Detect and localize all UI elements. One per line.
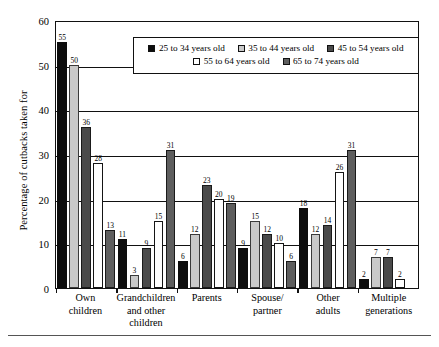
bar[interactable]: 55 [57, 42, 67, 288]
legend-label: 65 to 74 years old [293, 55, 359, 68]
y-tick-label: 20 [10, 194, 49, 205]
bar[interactable]: 18 [299, 208, 309, 288]
x-category-label-line: Parents [176, 292, 237, 305]
bar[interactable]: 11 [118, 239, 128, 288]
legend-item[interactable]: 55 to 64 years old [193, 55, 269, 68]
x-category-label: Multiplegenerations [358, 292, 419, 330]
bar[interactable]: 31 [166, 150, 176, 288]
bar-value-label: 20 [215, 191, 223, 199]
y-tick-label: 50 [10, 60, 49, 71]
bar[interactable]: 6 [286, 261, 296, 288]
legend-label: 45 to 54 years old [338, 42, 404, 55]
bar[interactable]: 36 [81, 127, 91, 288]
y-tick-label: 60 [10, 16, 49, 27]
bar-value-label: 15 [155, 213, 163, 221]
legend-item[interactable]: 65 to 74 years old [283, 55, 359, 68]
bar[interactable]: 10 [274, 243, 284, 288]
y-tick-label: 40 [10, 105, 49, 116]
bar-value-label: 12 [191, 226, 199, 234]
bar-value-label: 7 [386, 249, 390, 257]
bar-value-label: 19 [227, 195, 235, 203]
x-category-label-line: Own [55, 292, 116, 305]
legend-item[interactable]: 35 to 44 years old [238, 42, 314, 55]
bar-slot: 36 [81, 22, 91, 288]
legend-swatch-icon [148, 45, 155, 52]
legend-label: 25 to 34 years old [159, 42, 225, 55]
bar[interactable]: 7 [383, 257, 393, 288]
bar-value-label: 12 [263, 226, 271, 234]
x-category-label-line: partner [237, 305, 298, 318]
bar[interactable]: 14 [323, 225, 333, 288]
bar-value-label: 28 [94, 155, 102, 163]
y-tick-label: 10 [10, 239, 49, 250]
x-category-label-line: Spouse/ [237, 292, 298, 305]
legend-swatch-icon [283, 58, 290, 65]
bar-value-label: 55 [58, 34, 66, 42]
legend-label: 35 to 44 years old [248, 42, 314, 55]
x-category-label-line: adults [298, 305, 359, 318]
bar-value-label: 31 [348, 142, 356, 150]
bar-value-label: 2 [398, 271, 402, 279]
x-category-label-line: children [116, 317, 177, 330]
bar[interactable]: 6 [178, 261, 188, 288]
bar[interactable]: 15 [250, 221, 260, 288]
bar[interactable]: 2 [359, 279, 369, 288]
bar[interactable]: 50 [69, 65, 79, 288]
x-axis-category-labels: OwnchildrenGrandchildrenand otherchildre… [55, 292, 419, 330]
legend-swatch-icon [327, 45, 334, 52]
x-category-label-line: and other [116, 305, 177, 318]
legend-swatch-icon [238, 45, 245, 52]
bar[interactable]: 28 [93, 163, 103, 288]
bar[interactable]: 20 [214, 199, 224, 288]
y-tick-label: 30 [10, 150, 49, 161]
bar-value-label: 3 [133, 267, 137, 275]
x-category-label: Spouse/partner [237, 292, 298, 330]
bar[interactable]: 12 [311, 234, 321, 288]
legend-row-1: 25 to 34 years old35 to 44 years old45 t… [140, 42, 412, 55]
bar[interactable]: 23 [202, 185, 212, 288]
bar-slot: 13 [105, 22, 115, 288]
bar[interactable]: 9 [142, 248, 152, 288]
legend-swatch-icon [193, 58, 200, 65]
bar[interactable]: 31 [347, 150, 357, 288]
bar[interactable]: 12 [262, 234, 272, 288]
legend-item[interactable]: 25 to 34 years old [148, 42, 224, 55]
legend-item[interactable]: 45 to 54 years old [327, 42, 403, 55]
x-category-label: Ownchildren [55, 292, 116, 330]
x-category-label-line: Grandchildren [116, 292, 177, 305]
x-category-label-line: children [55, 305, 116, 318]
bar-value-label: 9 [241, 240, 245, 248]
bar[interactable]: 19 [226, 203, 236, 288]
bar-value-label: 9 [145, 240, 149, 248]
bar[interactable]: 13 [105, 230, 115, 288]
bar-value-label: 13 [106, 222, 114, 230]
bar[interactable]: 12 [190, 234, 200, 288]
bar[interactable]: 9 [238, 248, 248, 288]
bar-group: 5550362813 [56, 22, 116, 288]
x-category-label-line: Other [298, 292, 359, 305]
bar-value-label: 31 [167, 142, 175, 150]
bar-chart: Percentage of cutbacks taken for 0102030… [0, 0, 439, 347]
bar[interactable]: 3 [130, 275, 140, 288]
y-tick-label: 0 [10, 284, 49, 295]
bar-value-label: 23 [203, 177, 211, 185]
x-category-label-line: Multiple [358, 292, 419, 305]
bar-value-label: 10 [275, 235, 283, 243]
bar-value-label: 7 [374, 249, 378, 257]
bar-value-label: 15 [251, 213, 259, 221]
x-category-label: Otheradults [298, 292, 359, 330]
bar-value-label: 6 [289, 253, 293, 261]
legend-row-2: 55 to 64 years old65 to 74 years old [140, 55, 412, 68]
bar-value-label: 12 [312, 226, 320, 234]
bar-value-label: 50 [70, 57, 78, 65]
x-category-label: Grandchildrenand otherchildren [116, 292, 177, 330]
bar-value-label: 18 [300, 200, 308, 208]
x-category-label-line: generations [358, 305, 419, 318]
bar-value-label: 36 [82, 119, 90, 127]
chart-legend: 25 to 34 years old35 to 44 years old45 t… [133, 37, 419, 74]
bar-value-label: 26 [336, 164, 344, 172]
bar[interactable]: 7 [371, 257, 381, 288]
bar[interactable]: 15 [154, 221, 164, 288]
bar[interactable]: 26 [335, 172, 345, 288]
bar[interactable]: 2 [395, 279, 405, 288]
